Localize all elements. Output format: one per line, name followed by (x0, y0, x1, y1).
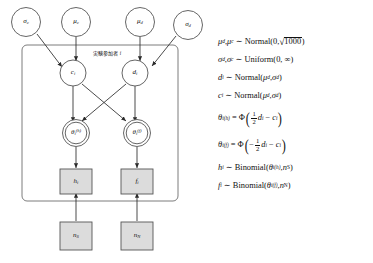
node-mu-c (62, 8, 91, 37)
graphical-model-figure: σc μc μd σd ci di θi(h) θi(f) hi fi (0, 0, 373, 263)
node-n-s (60, 222, 92, 250)
edge-sigmac-to-ci (37, 34, 62, 67)
node-h-i (60, 169, 92, 194)
node-n-n (121, 222, 153, 250)
equation-c-i: ci∼Normal(μd, σd) (218, 87, 373, 105)
node-theta-h-inner (65, 122, 87, 144)
equation-d-i: di∼Normal(μd, σd) (218, 69, 373, 87)
equation-f-i: fi∼Binomial(θi(f), nN) (218, 177, 373, 195)
node-sigma-d (174, 11, 203, 40)
equation-theta-h: θi(h)=Φ(12di−ci) (218, 105, 373, 132)
plate-label: 実験参加者 i (93, 49, 122, 56)
equation-mu-priors: μd, μc∼Normal(0, √1000) (218, 33, 373, 51)
node-sigma-c (12, 8, 41, 37)
edge-sigmad-to-di (152, 36, 176, 66)
node-f-i (121, 169, 153, 194)
node-mu-d (126, 8, 155, 37)
node-theta-f-inner (126, 122, 148, 144)
diagram-canvas (0, 0, 215, 263)
equation-h-i: hi∼Binomial(θi(h), nS) (218, 159, 373, 177)
plate-boundary (22, 45, 178, 201)
node-c-i (60, 60, 86, 86)
node-d-i (122, 60, 148, 86)
equation-theta-f: θi(f)=Φ(−12di−ci) (218, 132, 373, 159)
equation-sigma-priors: σd, σc∼Uniform(0, ∞) (218, 51, 373, 69)
plate-diagram: σc μc μd σd ci di θi(h) θi(f) hi fi (0, 0, 215, 263)
model-equations: μd, μc∼Normal(0, √1000) σd, σc∼Uniform(0… (218, 33, 373, 195)
